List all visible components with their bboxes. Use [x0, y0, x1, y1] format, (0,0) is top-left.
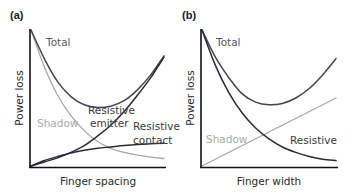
- panel-a: (a) Finger spacing Power loss Total Shad…: [10, 9, 180, 187]
- panel-a-y-axis-label: Power loss: [13, 70, 25, 125]
- panel-b-curve-shadow: [202, 98, 336, 166]
- panel-b: (b) Finger width Power loss Total Shadow…: [182, 9, 338, 187]
- figure: (a) Finger spacing Power loss Total Shad…: [0, 0, 351, 193]
- panel-a-x-axis-label: Finger spacing: [60, 175, 136, 187]
- panel-a-label-total: Total: [45, 36, 71, 48]
- panel-b-label-shadow: Shadow: [206, 133, 248, 145]
- panel-a-label-shadow: Shadow: [37, 117, 79, 129]
- panel-a-label-resistive-contact-line1: Resistive: [133, 120, 180, 132]
- panel-a-label: (a): [10, 9, 24, 21]
- panel-b-x-axis-label: Finger width: [237, 175, 302, 187]
- panel-a-curve-resistive-contact: [31, 143, 164, 166]
- panel-a-label-resistive-emitter-line2: emitter: [90, 117, 129, 129]
- panel-b-y-axis-label: Power loss: [184, 70, 196, 125]
- panel-a-label-resistive-emitter-line1: Resistive: [88, 104, 135, 116]
- panel-b-label-resistive: Resistive: [290, 134, 337, 146]
- panel-a-label-resistive-contact-line2: contact: [133, 134, 172, 146]
- panel-b-label-total: Total: [215, 36, 241, 48]
- panel-b-label: (b): [182, 9, 196, 21]
